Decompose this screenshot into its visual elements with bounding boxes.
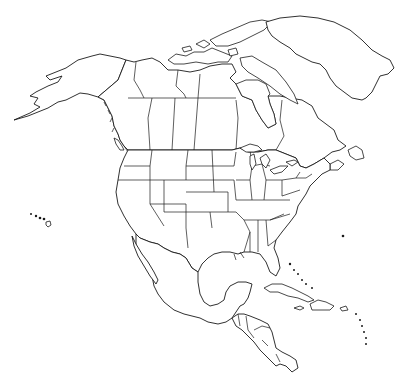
newfoundland [348,146,364,160]
ellesmere-island [210,20,272,46]
hawaii-islands [30,213,51,227]
arctic-islands [168,48,232,64]
jamaica [294,306,304,310]
caribbean-small-islands [289,235,367,345]
hispaniola [310,300,334,310]
north-america-outline-map [0,0,405,384]
puerto-rico [340,306,348,311]
nova-scotia [330,160,344,170]
cuba [264,284,314,302]
map-svg [0,0,405,384]
